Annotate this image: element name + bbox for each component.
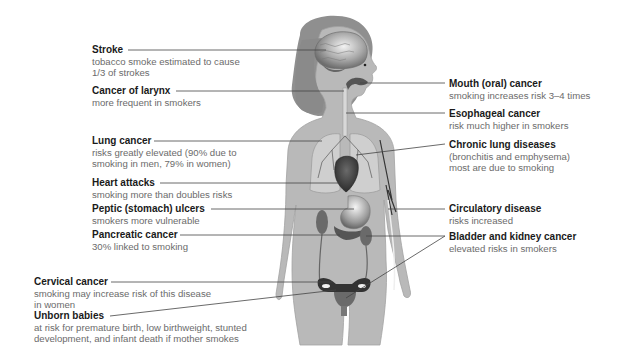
- label-stroke: Stroke tobacco smoke estimated to cause …: [92, 44, 240, 79]
- label-desc: elevated risks in smokers: [449, 243, 576, 255]
- label-desc: 30% linked to smoking: [92, 241, 188, 253]
- label-desc: risk much higher in smokers: [449, 120, 568, 132]
- label-desc: tobacco smoke estimated to cause: [92, 56, 240, 68]
- label-title: Esophageal cancer: [449, 108, 568, 120]
- label-desc: risks increased: [449, 215, 541, 227]
- label-desc: smoking in men, 79% in women): [92, 158, 237, 170]
- label-title: Bladder and kidney cancer: [449, 231, 576, 243]
- label-desc: development, and infant death if mother …: [34, 333, 247, 345]
- label-title: Circulatory disease: [449, 203, 541, 215]
- label-desc: 1/3 of strokes: [92, 67, 240, 79]
- label-cervical: Cervical cancer smoking may increase ris…: [34, 276, 211, 311]
- label-desc: risks greatly elevated (90% due to: [92, 147, 237, 159]
- label-title: Cancer of larynx: [92, 85, 201, 97]
- label-lung-cancer: Lung cancer risks greatly elevated (90% …: [92, 135, 237, 170]
- label-bladder-kidney: Bladder and kidney cancer elevated risks…: [449, 231, 576, 254]
- esophagus: [343, 88, 347, 136]
- label-circulatory: Circulatory disease risks increased: [449, 203, 541, 226]
- label-peptic-ulcers: Peptic (stomach) ulcers smokers more vul…: [92, 203, 205, 226]
- label-mouth: Mouth (oral) cancer smoking increases ri…: [449, 78, 590, 101]
- label-title: Stroke: [92, 44, 240, 56]
- eye: [364, 64, 367, 67]
- label-chronic-lung: Chronic lung diseases (bronchitis and em…: [449, 139, 570, 174]
- kidney-left: [316, 210, 328, 234]
- label-desc: (bronchitis and emphysema): [449, 151, 570, 163]
- label-desc: more frequent in smokers: [92, 97, 201, 109]
- label-title: Peptic (stomach) ulcers: [92, 203, 205, 215]
- label-title: Heart attacks: [92, 177, 232, 189]
- label-title: Lung cancer: [92, 135, 237, 147]
- label-heart-attacks: Heart attacks smoking more than doubles …: [92, 177, 232, 200]
- label-esophageal: Esophageal cancer risk much higher in sm…: [449, 108, 568, 131]
- label-larynx: Cancer of larynx more frequent in smoker…: [92, 85, 201, 108]
- label-desc: in women: [34, 299, 211, 311]
- label-title: Chronic lung diseases: [449, 139, 570, 151]
- label-desc: smokers more vulnerable: [92, 215, 205, 227]
- label-desc: at risk for premature birth, low birthwe…: [34, 322, 247, 334]
- label-title: Pancreatic cancer: [92, 229, 188, 241]
- label-title: Cervical cancer: [34, 276, 211, 288]
- label-unborn: Unborn babies at risk for premature birt…: [34, 310, 247, 345]
- label-desc: smoking may increase risk of this diseas…: [34, 288, 211, 300]
- label-title: Mouth (oral) cancer: [449, 78, 590, 90]
- label-desc: smoking increases risk 3–4 times: [449, 90, 590, 102]
- label-pancreatic: Pancreatic cancer 30% linked to smoking: [92, 229, 188, 252]
- label-title: Unborn babies: [34, 310, 247, 322]
- label-desc: most are due to smoking: [449, 162, 570, 174]
- cervix: [341, 306, 347, 316]
- label-desc: smoking more than doubles risks: [92, 189, 232, 201]
